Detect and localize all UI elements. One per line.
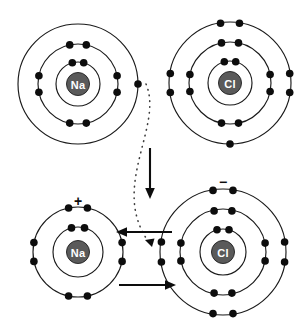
electron-dot: [177, 239, 185, 247]
electron-dot: [210, 289, 218, 297]
electron-dot: [281, 258, 289, 266]
chlorine-atom-label: Cl: [224, 78, 235, 90]
electron-dot: [218, 119, 226, 127]
chlorine-atom-group: Cl: [167, 20, 294, 148]
electron-dot: [281, 238, 289, 246]
electron-dot: [69, 59, 77, 67]
downward-arrow-head: [145, 188, 155, 199]
electron-dot: [235, 119, 243, 127]
electron-dot: [261, 239, 269, 247]
electron-dot: [113, 89, 121, 97]
electron-dot: [35, 89, 43, 97]
sodium-ion-label: Na: [71, 247, 86, 259]
electron-dot: [266, 88, 274, 96]
electron-dot: [235, 39, 243, 47]
electron-dot: [113, 72, 121, 80]
electron-transfer-arrow-head: [145, 239, 155, 248]
electron-dot: [158, 258, 166, 266]
leftward-arrow-head: [116, 227, 127, 237]
electron-dot: [213, 226, 221, 234]
electron-dot: [229, 310, 237, 318]
electron-dot: [228, 207, 236, 215]
electron-dot: [68, 224, 76, 232]
electron-dot: [84, 292, 92, 300]
electron-dot: [30, 258, 38, 266]
rightward-arrow-head: [165, 280, 176, 290]
electron-dot: [118, 258, 126, 266]
electron-dot: [209, 187, 217, 195]
electron-dot: [66, 119, 74, 127]
electron-dot: [65, 204, 73, 212]
valence-electron-dot: [134, 80, 142, 88]
electron-dot: [177, 257, 185, 265]
electron-dot: [83, 41, 91, 49]
electron-dot: [186, 88, 194, 96]
electron-dot: [229, 187, 237, 195]
sodium-atom-label: Na: [71, 79, 86, 91]
electron-dot: [167, 89, 175, 97]
electron-dot: [35, 72, 43, 80]
electron-dot: [118, 239, 126, 247]
electron-dot: [225, 226, 233, 234]
electron-dot: [236, 20, 244, 28]
electron-dot: [66, 41, 74, 49]
downward-process-arrow: [145, 148, 155, 199]
electron-dot: [226, 140, 234, 148]
electron-dot: [228, 289, 236, 297]
electron-dot: [80, 59, 88, 67]
electron-dot: [221, 58, 229, 66]
electron-dot: [81, 224, 89, 232]
rightward-attraction-arrow: [119, 280, 176, 290]
electron-dot: [65, 292, 73, 300]
electron-dot: [266, 71, 274, 79]
ionic-bonding-diagram: Na: [0, 0, 303, 334]
electron-dot: [286, 70, 294, 78]
electron-dot: [209, 310, 217, 318]
electron-dot: [186, 71, 194, 79]
electron-dot: [232, 58, 240, 66]
electron-dot: [217, 20, 225, 28]
sodium-ion-group: + Na: [30, 193, 126, 300]
electron-dot: [158, 238, 166, 246]
sodium-atom-group: Na: [18, 24, 142, 144]
electron-dot: [261, 257, 269, 265]
electron-dot: [167, 70, 175, 78]
electron-dot: [210, 207, 218, 215]
chloride-ion-charge-label: −: [219, 174, 227, 190]
electron-transfer-dotted-path: [134, 84, 150, 241]
leftward-attraction-arrow: [116, 227, 172, 237]
diagram-canvas: Na: [0, 0, 303, 334]
electron-transfer-dotted-path-group: [134, 84, 154, 247]
electron-dot: [218, 39, 226, 47]
electron-dot: [286, 89, 294, 97]
chloride-ion-group: −: [158, 174, 289, 317]
electron-dot: [30, 239, 38, 247]
chloride-ion-label: Cl: [217, 247, 228, 259]
electron-dot: [83, 119, 91, 127]
electron-dot: [84, 204, 92, 212]
